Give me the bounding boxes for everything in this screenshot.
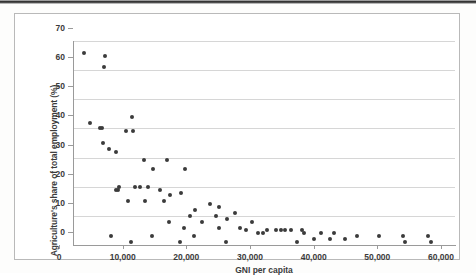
scatter-point bbox=[233, 211, 237, 215]
scatter-point bbox=[426, 234, 430, 238]
scatter-point bbox=[192, 234, 196, 238]
scatter-point bbox=[377, 234, 381, 238]
y-tick-mark bbox=[68, 28, 73, 29]
x-tick-label: 50,000 bbox=[347, 252, 407, 262]
scatter-point bbox=[150, 234, 154, 238]
scatter-point bbox=[401, 234, 405, 238]
x-tick-mark bbox=[314, 245, 315, 249]
scatter-point bbox=[167, 220, 171, 224]
scatter-point bbox=[283, 228, 287, 232]
scatter-point bbox=[114, 150, 118, 154]
scatter-point bbox=[109, 234, 113, 238]
x-tick-label: 30,000 bbox=[220, 252, 280, 262]
x-axis-line bbox=[73, 245, 456, 246]
scatter-point bbox=[168, 193, 172, 197]
scatter-point bbox=[193, 208, 197, 212]
y-axis-title: Agriculture's share of total employment … bbox=[48, 68, 60, 273]
gridline-horizontal bbox=[73, 41, 455, 42]
scatter-point bbox=[295, 240, 299, 244]
y-tick-mark bbox=[68, 115, 73, 116]
scatter-point bbox=[107, 147, 111, 151]
scatter-point bbox=[208, 202, 212, 206]
y-tick-mark bbox=[68, 174, 73, 175]
scatter-point bbox=[102, 65, 106, 69]
y-axis-line bbox=[73, 41, 74, 246]
plot-area bbox=[73, 41, 455, 245]
x-tick-mark bbox=[123, 245, 124, 249]
scatter-point bbox=[138, 185, 142, 189]
y-tick-label: 60 bbox=[23, 53, 65, 62]
scatter-point bbox=[312, 237, 316, 241]
scatter-point bbox=[289, 228, 293, 232]
scatter-point bbox=[126, 199, 130, 203]
y-tick-mark bbox=[68, 232, 73, 233]
scatter-point bbox=[178, 240, 182, 244]
y-tick-label: 70 bbox=[23, 24, 65, 33]
scatter-point bbox=[162, 199, 166, 203]
scatter-point bbox=[274, 228, 278, 232]
x-axis-title: GNI per capita bbox=[73, 265, 455, 275]
scatter-point bbox=[101, 141, 105, 145]
scatter-point bbox=[332, 231, 336, 235]
scatter-point bbox=[82, 51, 86, 55]
scatter-point bbox=[238, 226, 242, 230]
scatter-point bbox=[328, 237, 332, 241]
x-tick-mark bbox=[186, 245, 187, 249]
x-tick-mark bbox=[441, 245, 442, 249]
gridline-horizontal bbox=[73, 158, 455, 159]
scatter-point bbox=[142, 158, 146, 162]
x-tick-label: 10,000 bbox=[93, 252, 153, 262]
scatter-point bbox=[88, 121, 92, 125]
x-tick-label: 20,000 bbox=[156, 252, 216, 262]
scatter-point bbox=[182, 226, 186, 230]
scatter-point bbox=[200, 220, 204, 224]
scatter-point bbox=[279, 228, 283, 232]
scatter-point bbox=[151, 167, 155, 171]
scatter-point bbox=[183, 167, 187, 171]
scatter-point bbox=[302, 231, 306, 235]
gridline-horizontal bbox=[73, 187, 455, 188]
scatter-point bbox=[124, 129, 128, 133]
x-tick-label: 0 bbox=[29, 252, 89, 262]
y-tick-mark bbox=[68, 145, 73, 146]
x-tick-mark bbox=[377, 245, 378, 249]
scatter-point bbox=[244, 228, 248, 232]
x-tick-label: 40,000 bbox=[284, 252, 344, 262]
scatter-point bbox=[133, 185, 137, 189]
scatter-point bbox=[130, 115, 134, 119]
scatter-point bbox=[355, 234, 359, 238]
scatter-point bbox=[103, 54, 107, 58]
scatter-point bbox=[217, 205, 221, 209]
scatter-point bbox=[214, 214, 218, 218]
scatter-point bbox=[188, 214, 192, 218]
scatter-point bbox=[143, 199, 147, 203]
scatter-point bbox=[131, 129, 135, 133]
scatter-point bbox=[250, 220, 254, 224]
scatter-point bbox=[146, 185, 150, 189]
scan-artifact-band bbox=[0, 0, 476, 4]
gridline-horizontal bbox=[73, 216, 455, 217]
scatter-point bbox=[403, 240, 407, 244]
chart-frame: 010203040506070 Agriculture's share of t… bbox=[14, 13, 460, 260]
y-tick-mark bbox=[68, 203, 73, 204]
y-tick-mark bbox=[68, 86, 73, 87]
scatter-point bbox=[261, 231, 265, 235]
scatter-point bbox=[158, 188, 162, 192]
scatter-point bbox=[100, 126, 104, 130]
scatter-point bbox=[429, 240, 433, 244]
scatter-point bbox=[179, 191, 183, 195]
scatter-point bbox=[129, 240, 133, 244]
x-tick-label: 60,000 bbox=[411, 252, 471, 262]
scatter-point bbox=[319, 231, 323, 235]
scatter-point bbox=[165, 158, 169, 162]
scatter-point bbox=[116, 188, 120, 192]
gridline-horizontal bbox=[73, 70, 455, 71]
scatter-point bbox=[217, 226, 221, 230]
y-tick-mark bbox=[68, 57, 73, 58]
gridline-horizontal bbox=[73, 99, 455, 100]
x-tick-mark bbox=[250, 245, 251, 249]
x-tick-mark bbox=[59, 245, 60, 249]
scatter-point bbox=[256, 231, 260, 235]
scatter-point bbox=[343, 237, 347, 241]
scatter-point bbox=[225, 217, 229, 221]
